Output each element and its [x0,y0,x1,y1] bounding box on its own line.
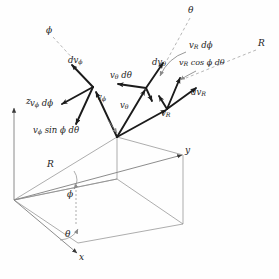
label-v-theta-dtheta: vθ dθ [110,71,132,81]
label-v-phi-sin-phi-dtheta: vϕ sin ϕ dθ [33,126,79,136]
label-dv-phi-base: dv [68,55,78,65]
radial-projection-line [14,179,117,200]
label-vpsd-suffix: sin ϕ dθ [42,125,79,135]
x-axis-line [14,200,77,253]
label-dvR-base: dv [191,87,201,97]
label-dv-R: dvR [191,88,206,98]
label-dv-theta: dvθ [152,58,166,68]
vR-cos-phi-dtheta-leader [180,71,196,80]
radius-line [14,137,117,200]
v-theta-dtheta-vector [118,84,146,88]
label-vRdp-suffix: dϕ [198,40,212,50]
label-dv-theta-sub: θ [162,60,166,67]
label-vRcpd-suffix: cos ϕ dθ [188,58,224,67]
label-v-phi-dphi: vϕ dϕ [30,99,53,109]
label-vtdt-suffix: dθ [119,70,132,80]
label-vR-sub: R [166,111,171,118]
v-theta-branch-down [146,88,152,101]
guide-label-phi: ϕ [46,26,52,35]
angle-label-R: R [47,160,54,169]
axis-label-x: x [79,253,84,262]
label-v-theta: vθ [120,101,129,111]
label-vR-dphi: vR dϕ [189,41,212,51]
dv-phi-vector [72,65,93,87]
label-v-phi-dphi-suffix: dϕ [39,98,53,108]
guide-label-theta: θ [188,6,193,15]
figure-canvas: z y x R ϕ θ ϕ θ R dvϕ vϕ dϕ vϕ sin ϕ dθ … [0,0,279,279]
angle-label-theta: θ [65,230,70,239]
guide-rays [53,18,256,78]
label-dv-theta-base: dv [152,57,162,67]
box-top-edge [117,137,183,155]
label-dvR-sub: R [201,90,206,97]
y-axis-line [14,155,182,200]
label-v-theta-sub: θ [125,103,129,110]
guide-label-R: R [258,39,265,48]
angle-label-phi: ϕ [67,190,73,199]
label-vR-cos-phi-dtheta: vR cos ϕ dθ [179,59,225,68]
label-dv-phi-sub: ϕ [78,58,82,65]
axis-label-y: y [185,146,190,155]
v-phi-sin-phi-dtheta-leader [108,120,117,133]
label-v-phi-sub: ϕ [102,95,106,102]
base-parallelogram [14,179,183,243]
projection-box [14,137,183,243]
arc-R-phi [74,171,77,189]
label-v-R: vR [161,109,170,119]
label-v-phi: vϕ [97,93,106,103]
diagram-vector-graphics [0,0,279,279]
label-dv-phi: dvϕ [68,56,82,66]
